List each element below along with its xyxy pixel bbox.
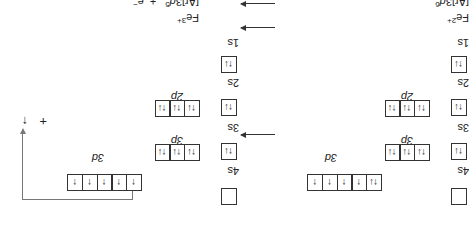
fe2-3d-orbital: ↑ [337, 174, 353, 191]
fe2-2s-orbital: ↑↓ [451, 99, 467, 116]
fe2-3p-orbital: ↑↓ [414, 144, 430, 161]
electron-path-line [132, 191, 133, 200]
fe2-3d-orbital: ↑↓ [366, 174, 382, 191]
fe2-1s-label: 1s [457, 37, 469, 49]
reaction-arrow [241, 3, 275, 4]
fe3-2s-orbital: ↑↓ [221, 99, 237, 116]
fe3-3d-orbital: ↑ [111, 174, 127, 191]
released-electron-icon: ↑ [22, 115, 28, 127]
fe2-3p-orbital: ↑↓ [385, 144, 401, 161]
fe3-4s-label: 4s [227, 165, 239, 177]
fe3-2s-label: 2s [227, 77, 239, 89]
fe2-2p-orbital: ↑↓ [385, 100, 401, 117]
reaction-arrow [241, 134, 275, 135]
fe3-3d-orbital: ↑ [67, 174, 83, 191]
electron-path-line [22, 134, 23, 200]
fe3-4s-orbital [221, 188, 237, 205]
fe3-3s-orbital: ↑↓ [221, 143, 237, 160]
fe2-4s-orbital [451, 188, 467, 205]
electron-path-arrowhead-icon [20, 128, 26, 134]
fe3-3d-orbital: ↑ [97, 174, 113, 191]
fe3-3s-label: 3s [227, 122, 239, 134]
fe2-2p-orbital: ↑↓ [399, 100, 415, 117]
fe3-1s-label: 1s [227, 37, 239, 49]
fe2-3d-orbital: ↑ [351, 174, 367, 191]
fe3-ion-label: Fe3+ [177, 12, 199, 26]
fe3-3d-orbital: ↑ [82, 174, 98, 191]
fe3-3p-orbital: ↑↓ [184, 144, 200, 161]
fe3-3p-orbital: ↑↓ [155, 144, 171, 161]
reaction-arrow [241, 27, 275, 28]
fe2-2s-label: 2s [457, 77, 469, 89]
electron-path-line [23, 199, 133, 200]
fe2-3d-orbital: ↑ [307, 174, 323, 191]
fe3-3p-orbital: ↑↓ [169, 144, 185, 161]
fe3-config-label: [Ar]3d5 +e− [133, 0, 199, 10]
fe2-2p-orbitals: ↑↓ ↑↓ ↑↓ [385, 100, 430, 117]
fe3-2p-orbital: ↑↓ [169, 100, 185, 117]
fe2-4s-label: 4s [457, 165, 469, 177]
fe3-2p-orbitals: ↑↓ ↑↓ ↑↓ [155, 100, 200, 117]
fe3-2p-orbital: ↑↓ [184, 100, 200, 117]
fe2-3p-orbital: ↑↓ [399, 144, 415, 161]
fe3-1s-orbital: ↑↓ [221, 56, 237, 73]
fe2-config-label: [Ar]3d6 [435, 0, 469, 10]
fe2-3p-orbitals: ↑↓ ↑↓ ↑↓ [385, 144, 430, 161]
fe3-3d-label: 3d [92, 152, 104, 164]
fe2-3s-orbital: ↑↓ [451, 143, 467, 160]
fe2-3d-orbitals: ↑↓ ↑ ↑ ↑ ↑ [307, 174, 382, 191]
fe2-3d-orbital: ↑ [322, 174, 338, 191]
orbital-diagram: Fe2+ [Ar]3d6 1s ↑↓ 2s ↑↓ 2p ↑↓ ↑↓ ↑↓ 3s … [0, 0, 475, 227]
fe3-3d-orbital: ↑ [126, 174, 142, 191]
fe3-2p-orbital: ↑↓ [155, 100, 171, 117]
fe2-1s-orbital: ↑↓ [451, 56, 467, 73]
fe2-3s-label: 3s [457, 122, 469, 134]
plus-sign: + [39, 115, 47, 127]
fe2-ion-label: Fe2+ [447, 12, 469, 26]
fe3-3d-orbitals: ↑ ↑ ↑ ↑ ↑ [67, 174, 142, 191]
fe2-2p-orbital: ↑↓ [414, 100, 430, 117]
fe2-3d-label: 3d [325, 152, 337, 164]
fe3-3p-orbitals: ↑↓ ↑↓ ↑↓ [155, 144, 200, 161]
